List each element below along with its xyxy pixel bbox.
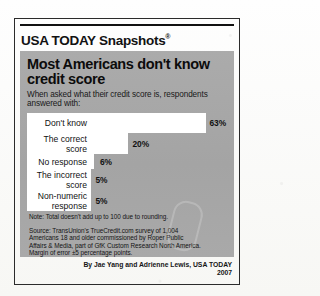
bar-value-label: 5% — [95, 175, 107, 185]
category-label: The incorrect score — [27, 169, 91, 190]
brand-name: USA TODAY Snapshots — [21, 33, 165, 48]
category-label: The correct score — [27, 133, 91, 154]
bar-fill — [91, 154, 94, 169]
chart-source: Source: TransUnion's TrueCredit.com surv… — [29, 227, 201, 257]
chart-row: No response 6% — [27, 154, 239, 169]
bar-fill — [91, 133, 128, 154]
chart-note: Note: Total doesn't add up to 100 due to… — [29, 213, 179, 220]
snapshot-frame: USA TODAY Snapshots® Most Americans don'… — [14, 18, 240, 285]
chart-row: Non-numeric response 5% — [27, 190, 239, 211]
bar-value-label: 63% — [209, 118, 226, 128]
chart-subtitle: When asked what their credit score is, r… — [27, 90, 227, 109]
byline: By Jae Yang and Adrienne Lewis, USA TODA… — [20, 257, 234, 277]
registered-mark-icon: ® — [165, 33, 170, 40]
category-label: Don't know — [27, 113, 91, 133]
bar-track: 20% — [91, 133, 239, 154]
bar-track: 5% — [91, 169, 239, 190]
chart-panel: Most Americans don't know credit score W… — [20, 51, 234, 257]
chart-row: The correct score 20% — [27, 133, 239, 154]
bar-track: 5% — [91, 190, 239, 211]
header-rule — [20, 24, 234, 26]
brand-title: USA TODAY Snapshots® — [20, 28, 234, 51]
bar-value-label: 5% — [95, 196, 107, 206]
chart-row: The incorrect score 5% — [27, 169, 239, 190]
bar-track: 6% — [91, 154, 239, 169]
snapshot-inner: USA TODAY Snapshots® Most Americans don'… — [20, 24, 234, 280]
category-label: No response — [27, 154, 91, 169]
chart-row: Don't know 63% — [27, 113, 239, 133]
byline-year: 2007 — [20, 269, 232, 277]
category-label: Non-numeric response — [27, 190, 91, 211]
bar-fill — [91, 113, 206, 133]
bar-track: 63% — [91, 113, 239, 133]
bar-chart: Don't know 63% The correct score 20% — [27, 113, 239, 205]
bar-value-label: 6% — [100, 157, 112, 167]
page-title: Most Americans don't know credit score — [27, 57, 227, 88]
byline-credit: By Jae Yang and Adrienne Lewis, USA TODA… — [83, 261, 232, 268]
bar-value-label: 20% — [132, 139, 149, 149]
